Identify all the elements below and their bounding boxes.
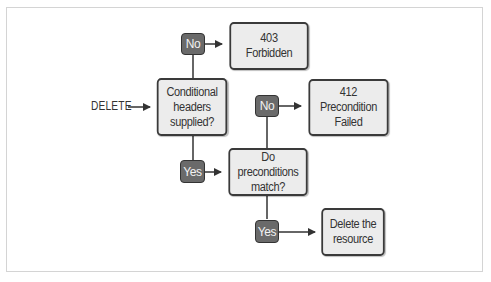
conditional-no-badge: No <box>181 33 205 55</box>
preconditions-no-badge: No <box>255 95 279 117</box>
preconditions-match-node: Do preconditions match? <box>228 148 307 196</box>
conditional-headers-node: Conditional headers supplied? <box>157 78 227 136</box>
precondition-failed-412-node: 412 Precondition Failed <box>308 79 388 136</box>
preconditions-yes-badge: Yes <box>255 220 279 243</box>
conditional-yes-badge: Yes <box>180 160 205 183</box>
delete-resource-node: Delete the resource <box>321 208 384 256</box>
delete-method-label: DELETE <box>91 99 132 113</box>
forbidden-403-node: 403 Forbidden <box>229 22 308 70</box>
